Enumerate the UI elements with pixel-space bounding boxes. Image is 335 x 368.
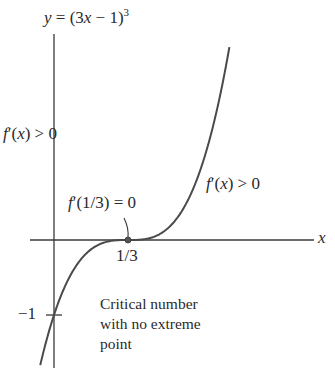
leader-line (124, 218, 128, 238)
graph-title: y = (3x − 1)3 (44, 6, 129, 28)
title-lhs: y (44, 8, 52, 27)
x-tick-label: 1/3 (116, 246, 138, 266)
x-symbol: x (220, 174, 228, 193)
critical-text: ′(1/3) = 0 (73, 193, 136, 212)
annotation-critical: f′(1/3) = 0 (68, 193, 136, 213)
annotation-right-derivative: f′(x) > 0 (206, 174, 260, 194)
annotation-left-derivative: f′(x) > 0 (3, 124, 57, 144)
x-axis-label: x (318, 228, 326, 248)
y-tick-label: −1 (18, 304, 36, 324)
title-rest: − 1) (91, 8, 123, 27)
x-symbol: x (17, 124, 25, 143)
prime-open: ′( (8, 124, 17, 143)
note-line-2: with no extreme (100, 314, 201, 334)
note-line-1: Critical number (100, 294, 201, 314)
close-ineq: ) > 0 (25, 124, 57, 143)
critical-note: Critical number with no extreme point (100, 294, 201, 354)
close-ineq: ) > 0 (228, 174, 260, 193)
title-eq: = (3 (52, 8, 84, 27)
note-line-3: point (100, 334, 201, 354)
function-graph: y = (3x − 1)3 f′(x) > 0 f′(x) > 0 f′(1/3… (0, 0, 335, 368)
title-exp: 3 (124, 6, 130, 18)
prime-open: ′( (211, 174, 220, 193)
critical-point (125, 237, 131, 243)
